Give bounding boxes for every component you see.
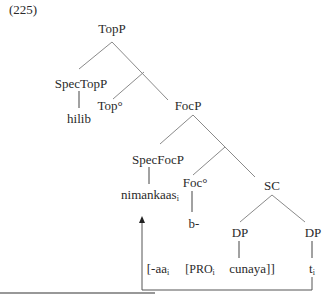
branch-topp-focp <box>112 42 168 100</box>
node-sc: SC <box>264 179 280 193</box>
node-top-head: Top° <box>97 99 122 113</box>
term-trace: ti <box>309 262 315 280</box>
term-cunaya: cunaya]] <box>229 262 274 276</box>
node-topp: TopP <box>98 22 125 36</box>
branch-sc-dpleft <box>240 195 272 222</box>
node-hilib: hilib <box>67 112 91 126</box>
index-i: i <box>177 194 179 203</box>
branch-focp-foc <box>193 147 225 175</box>
node-focp: FocP <box>175 99 202 113</box>
node-dp-left: DP <box>232 226 249 240</box>
arrowhead-icon <box>139 216 145 223</box>
node-spec-topp: SpecTopP <box>55 77 108 91</box>
term-pro: [PROi <box>185 262 215 280</box>
node-spec-focp: SpecFocP <box>132 153 184 167</box>
branch-focp-sc <box>193 115 255 177</box>
node-nimankaas: nimankaasi <box>121 188 179 206</box>
branch-sc-dpright <box>272 195 305 222</box>
node-b: b- <box>189 217 200 231</box>
node-dp-right: DP <box>305 226 322 240</box>
term-aa: [-aai <box>147 262 169 280</box>
node-foc-head: Foc° <box>183 176 208 190</box>
branch-topp-top <box>113 72 144 99</box>
branch-focp-specfocp <box>160 115 193 144</box>
branch-topp-spectopp <box>79 42 112 69</box>
